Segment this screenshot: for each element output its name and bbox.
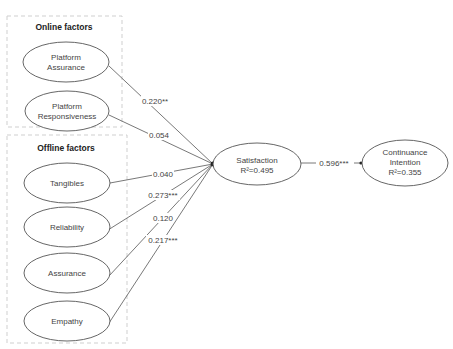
coef-reliability: 0.273***	[148, 191, 177, 200]
coef-empathy: 0.217***	[148, 236, 177, 245]
platform-assurance-ellipse	[23, 42, 109, 82]
tangibles-label: Tangibles	[50, 179, 84, 188]
assurance-label: Assurance	[48, 269, 86, 278]
platform-responsiveness-ellipse	[25, 91, 109, 131]
reliability-label: Reliability	[50, 223, 84, 232]
coef-assurance: 0.120	[153, 214, 174, 223]
node-platform-responsiveness: Platform Responsiveness	[25, 91, 109, 131]
continuance-intention-label-1: Continuance	[383, 148, 428, 157]
platform-responsiveness-label-2: Responsiveness	[38, 112, 97, 121]
continuance-intention-label-2: Intention	[390, 158, 421, 167]
node-tangibles: Tangibles	[24, 163, 110, 203]
node-reliability: Reliability	[24, 207, 110, 247]
platform-assurance-label-2: Assurance	[47, 63, 85, 72]
node-continuance-intention: Continuance Intention R²=0.355	[362, 140, 448, 186]
platform-responsiveness-label-1: Platform	[52, 102, 82, 111]
satisfaction-r2: R²=0.495	[240, 166, 274, 175]
offline-factors-title: Offline factors	[37, 143, 95, 153]
satisfaction-label: Satisfaction	[236, 156, 277, 165]
structural-model-diagram: Online factors Offline factors 0.220** 0…	[0, 0, 453, 349]
empathy-label: Empathy	[51, 317, 83, 326]
coef-tangibles: 0.040	[153, 170, 174, 179]
node-assurance: Assurance	[24, 253, 110, 293]
coef-platform-assurance: 0.220**	[142, 97, 168, 106]
node-satisfaction: Satisfaction R²=0.495	[213, 143, 301, 185]
online-factors-title: Online factors	[35, 22, 92, 32]
node-empathy: Empathy	[24, 301, 110, 341]
coef-satisfaction-continuance: 0.596***	[319, 159, 348, 168]
path-platform-assurance	[109, 66, 213, 164]
coef-platform-responsiveness: 0.054	[149, 131, 170, 140]
continuance-intention-r2: R²=0.355	[388, 168, 422, 177]
platform-assurance-label-1: Platform	[51, 53, 81, 62]
node-platform-assurance: Platform Assurance	[23, 42, 109, 82]
